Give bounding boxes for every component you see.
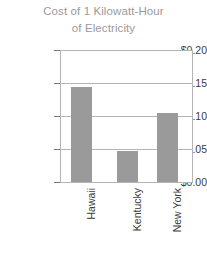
chart-title: Cost of 1 Kilowatt-Hour of Electricity (8, 3, 199, 37)
x-tick-label-new-york: New York (172, 188, 183, 258)
chart-title-line-1: Cost of 1 Kilowatt-Hour (8, 3, 199, 20)
bar-chart-figure: Cost of 1 Kilowatt-Hour of Electricity $… (0, 0, 207, 264)
gridline-0.15 (61, 83, 192, 84)
bar-kentucky (117, 151, 138, 182)
bar-new-york (157, 113, 178, 182)
chart-title-line-2: of Electricity (8, 20, 199, 37)
x-tick-label-hawaii: Hawaii (86, 188, 97, 258)
bar-hawaii (71, 87, 92, 182)
plot-area (60, 50, 193, 183)
x-tick-label-kentucky: Kentucky (132, 188, 143, 258)
